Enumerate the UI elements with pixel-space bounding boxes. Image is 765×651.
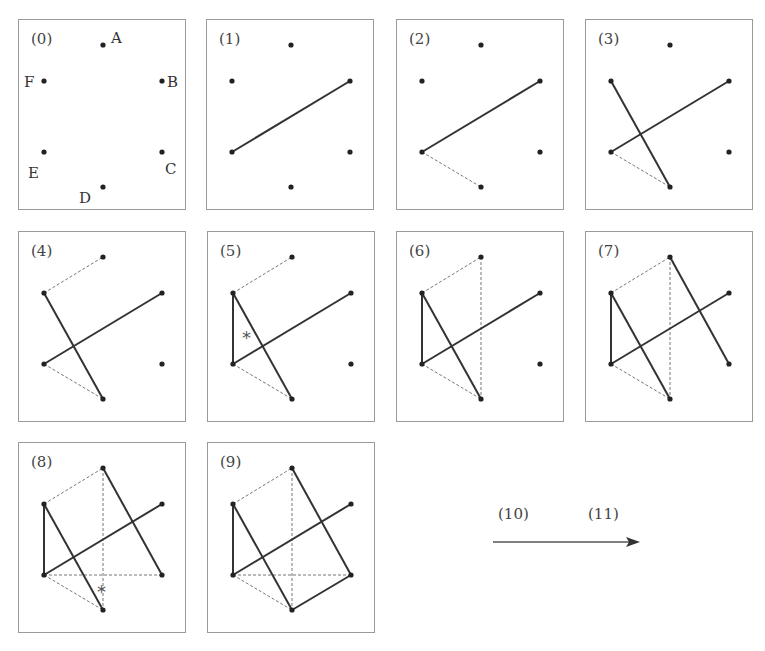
sequence-continuation: (10) (11) — [490, 505, 650, 585]
dashed-edge-ED — [422, 152, 481, 187]
vertex-label-A: A — [110, 29, 122, 47]
vertex-E — [419, 149, 424, 154]
vertex-C — [159, 149, 164, 154]
step-panel-9: (9) — [207, 442, 375, 633]
vertex-D — [100, 396, 105, 401]
solid-edge-FD — [233, 504, 292, 610]
vertex-A — [289, 254, 294, 259]
vertex-label-C: C — [165, 160, 176, 178]
solid-edge-FD — [611, 81, 670, 187]
vertex-F — [230, 501, 235, 506]
step-panel-8: (8)* — [18, 442, 186, 633]
vertex-F — [419, 78, 424, 83]
vertex-E — [230, 361, 235, 366]
vertex-F — [41, 501, 46, 506]
vertex-F — [419, 290, 424, 295]
vertex-F — [229, 78, 234, 83]
solid-edge-FD — [44, 504, 103, 610]
dashed-edge-FA — [233, 468, 292, 504]
graph-drawing — [207, 20, 375, 211]
vertex-label-F: F — [24, 73, 34, 91]
vertex-C — [726, 149, 731, 154]
vertex-E — [41, 572, 46, 577]
vertex-D — [289, 607, 294, 612]
vertex-F — [41, 290, 46, 295]
vertex-label-B: B — [167, 73, 178, 91]
vertex-A — [478, 254, 483, 259]
graph-drawing — [586, 20, 754, 211]
step-panel-3: (3) — [585, 19, 753, 210]
vertex-B — [347, 78, 352, 83]
vertex-D — [478, 396, 483, 401]
vertex-C — [348, 572, 353, 577]
graph-drawing — [397, 20, 565, 211]
solid-edge-AC — [292, 468, 351, 575]
solid-edge-EB — [422, 81, 540, 152]
vertex-E — [229, 149, 234, 154]
step-panel-4: (4) — [18, 231, 186, 422]
vertex-D — [100, 607, 105, 612]
graph-drawing — [208, 443, 376, 634]
vertex-D — [667, 396, 672, 401]
step-panel-5: (5)* — [207, 231, 375, 422]
vertex-B — [726, 78, 731, 83]
vertex-label-D: D — [79, 189, 91, 207]
dashed-edge-FA — [422, 257, 481, 293]
step-panel-7: (7) — [585, 231, 753, 422]
graph-drawing: * — [19, 443, 187, 634]
vertex-E — [608, 149, 613, 154]
vertex-D — [478, 184, 483, 189]
solid-edge-DC — [292, 575, 351, 610]
step-panel-0: (0)ABCDEF — [18, 19, 186, 210]
solid-edge-AC — [670, 257, 729, 364]
vertex-C — [537, 361, 542, 366]
vertex-A — [667, 42, 672, 47]
vertex-A — [100, 42, 105, 47]
solid-edge-EB — [44, 293, 162, 364]
solid-edge-EB — [232, 81, 350, 152]
vertex-B — [537, 290, 542, 295]
graph-drawing — [397, 232, 565, 423]
vertex-A — [100, 254, 105, 259]
step-panel-1: (1) — [206, 19, 374, 210]
vertex-E — [41, 149, 46, 154]
vertex-C — [348, 361, 353, 366]
vertex-B — [726, 290, 731, 295]
vertex-E — [41, 361, 46, 366]
vertex-E — [419, 361, 424, 366]
graph-drawing — [19, 232, 187, 423]
vertex-C — [726, 361, 731, 366]
dashed-edge-FA — [44, 257, 103, 293]
right-arrow-icon — [490, 505, 650, 585]
vertex-B — [537, 78, 542, 83]
dashed-edge-FA — [611, 257, 670, 293]
vertex-D — [100, 184, 105, 189]
solid-edge-AC — [103, 468, 162, 575]
vertex-F — [41, 78, 46, 83]
vertex-A — [288, 42, 293, 47]
dashed-edge-FA — [44, 468, 103, 504]
step-panel-6: (6) — [396, 231, 564, 422]
solid-edge-FD — [44, 293, 103, 399]
asterisk-marker-icon: * — [242, 327, 251, 348]
vertex-B — [159, 290, 164, 295]
vertex-A — [100, 465, 105, 470]
vertex-F — [608, 78, 613, 83]
solid-edge-FD — [422, 293, 481, 399]
vertex-D — [288, 184, 293, 189]
dashed-edge-FA — [233, 257, 292, 293]
vertex-C — [537, 149, 542, 154]
vertex-F — [608, 290, 613, 295]
vertex-A — [478, 42, 483, 47]
vertex-C — [347, 149, 352, 154]
vertex-C — [159, 572, 164, 577]
solid-edge-FD — [611, 293, 670, 399]
vertex-F — [230, 290, 235, 295]
vertex-D — [667, 184, 672, 189]
vertex-E — [608, 361, 613, 366]
graph-drawing: ABCDEF — [19, 20, 187, 211]
vertex-C — [159, 361, 164, 366]
vertex-B — [159, 78, 164, 83]
solid-edge-EB — [611, 81, 729, 152]
graph-drawing: * — [208, 232, 376, 423]
